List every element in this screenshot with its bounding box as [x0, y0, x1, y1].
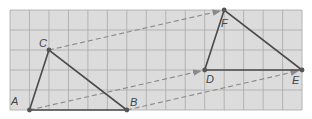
vertex-point-d	[202, 68, 207, 73]
vertex-point-b	[124, 108, 129, 113]
label-d: D	[206, 73, 214, 85]
label-c: C	[39, 37, 47, 49]
grid	[10, 10, 302, 110]
translation-diagram: A B C D E F	[0, 0, 312, 119]
label-a: A	[10, 95, 18, 107]
vertex-point-c	[47, 48, 52, 53]
vertex-point-f	[222, 8, 227, 13]
label-e: E	[292, 74, 300, 86]
vertex-point-a	[27, 108, 32, 113]
vertex-point-e	[300, 68, 305, 73]
label-b: B	[130, 96, 137, 108]
grid-background	[10, 10, 302, 110]
